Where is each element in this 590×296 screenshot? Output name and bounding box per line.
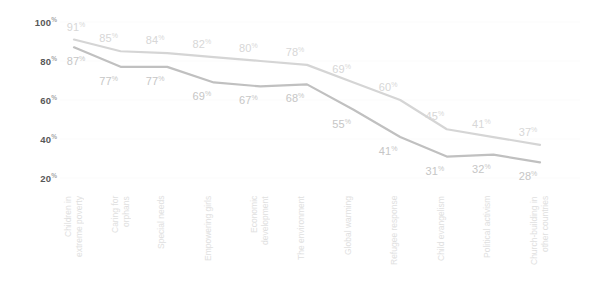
series-line-upper-series	[74, 40, 540, 145]
data-point-label: 77%	[99, 75, 118, 88]
data-point-label: 82%	[192, 38, 211, 51]
y-axis-tick-label: 20%	[40, 172, 57, 184]
data-point-label: 69%	[192, 90, 211, 103]
data-point-label: 85%	[99, 32, 118, 45]
y-axis-tick-label: 100%	[35, 16, 57, 28]
data-point-label: 80%	[239, 42, 258, 55]
data-point-label: 77%	[146, 75, 165, 88]
gridlines	[60, 22, 580, 178]
x-axis-category-label: Refugee response	[389, 196, 400, 292]
data-point-label: 55%	[332, 117, 351, 130]
data-point-label: 41%	[379, 145, 398, 158]
data-point-label: 28%	[519, 170, 538, 183]
x-axis-category-label: Political activism	[482, 196, 493, 292]
data-point-label: 91%	[67, 20, 86, 33]
data-point-label: 45%	[425, 110, 444, 123]
x-axis-category-label: Child evangelism	[436, 196, 447, 292]
x-axis-category-label: The environment	[296, 196, 307, 292]
y-axis-tick-label: 40%	[40, 133, 57, 145]
x-axis-category-label: Empowering girls	[203, 196, 214, 292]
chart-plot-area	[0, 0, 590, 296]
data-point-label: 31%	[425, 164, 444, 177]
data-point-label: 69%	[332, 63, 351, 76]
data-point-label: 84%	[146, 34, 165, 47]
data-point-label: 60%	[379, 81, 398, 94]
data-point-label: 37%	[519, 126, 538, 139]
line-chart: 100%80%60%40%20% 91%85%84%82%80%78%69%60…	[0, 0, 590, 296]
data-point-label: 78%	[286, 46, 305, 59]
x-axis-category-label: Caring for orphans	[110, 196, 131, 292]
data-point-label: 41%	[472, 118, 491, 131]
y-axis-tick-label: 80%	[40, 55, 57, 67]
data-point-label: 67%	[239, 94, 258, 107]
x-axis-category-label: Special needs	[156, 196, 167, 292]
y-axis-tick-label: 60%	[40, 94, 57, 106]
data-point-label: 87%	[67, 55, 86, 68]
data-point-label: 68%	[286, 92, 305, 105]
x-axis-category-label: Economic development	[249, 196, 270, 292]
x-axis-category-label: Children in extreme poverty	[63, 196, 84, 292]
x-axis-category-label: Global warming	[343, 196, 354, 292]
x-axis-category-label: Church-building in other countries	[529, 196, 550, 292]
data-point-label: 32%	[472, 162, 491, 175]
series-lines	[74, 40, 540, 163]
